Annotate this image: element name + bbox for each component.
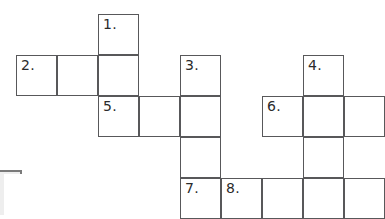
crossword-cell[interactable]: 8. xyxy=(221,178,262,219)
crossword-cell[interactable] xyxy=(344,178,385,219)
crossword-cell[interactable]: 3. xyxy=(180,55,221,96)
crossword-cell[interactable]: 4. xyxy=(303,55,344,96)
crossword-cell[interactable] xyxy=(303,178,344,219)
cell-number: 1. xyxy=(103,16,117,32)
crossword-cell[interactable] xyxy=(57,55,98,96)
crossword-cell[interactable]: 2. xyxy=(16,55,57,96)
cell-number: 4. xyxy=(308,57,322,73)
crossword-cell[interactable] xyxy=(139,96,180,137)
crossword-cell[interactable]: 6. xyxy=(262,96,303,137)
cell-number: 3. xyxy=(185,57,199,73)
corner-panel-veil xyxy=(4,174,22,215)
cell-number: 8. xyxy=(226,180,240,196)
crossword-cell[interactable]: 1. xyxy=(98,14,139,55)
crossword-cell[interactable] xyxy=(180,96,221,137)
crossword-cell[interactable] xyxy=(98,55,139,96)
cell-number: 2. xyxy=(21,57,35,73)
crossword-cell[interactable] xyxy=(344,96,385,137)
crossword-cell[interactable] xyxy=(303,137,344,178)
crossword-cell[interactable]: 5. xyxy=(98,96,139,137)
crossword-cell[interactable]: 7. xyxy=(180,178,221,219)
crossword-cell[interactable] xyxy=(262,178,303,219)
crossword-cell[interactable] xyxy=(303,96,344,137)
cell-number: 6. xyxy=(267,98,281,114)
cell-number: 5. xyxy=(103,98,117,114)
cell-number: 7. xyxy=(185,180,199,196)
crossword-cell[interactable] xyxy=(180,137,221,178)
